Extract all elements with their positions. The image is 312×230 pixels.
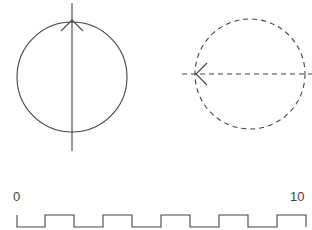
- scale-start-label: 0: [13, 189, 20, 204]
- solid-circle-group: [17, 3, 127, 151]
- diagram-canvas: [0, 0, 312, 230]
- dashed-circle-group: [182, 19, 312, 129]
- square-wave: [17, 215, 306, 227]
- scale-end-label: 10: [290, 189, 304, 204]
